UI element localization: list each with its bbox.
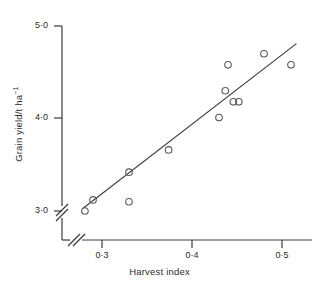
- data-point-marker: [222, 87, 229, 94]
- x-tick-label-0-3: 0·3: [85, 250, 119, 260]
- y-axis-ticks: [54, 26, 62, 211]
- y-axis-title-exponent: −1: [12, 86, 19, 94]
- regression-line: [83, 44, 296, 209]
- data-point-marker: [225, 62, 232, 69]
- data-point-marker: [288, 62, 295, 69]
- x-tick-label-0-4: 0·4: [175, 250, 209, 260]
- y-axis-title-text: Grain yield/t ha: [13, 95, 24, 162]
- x-tick-label-0-5: 0·5: [265, 250, 299, 260]
- x-axis-title: Harvest index: [0, 266, 319, 277]
- data-point-marker: [165, 147, 172, 154]
- data-points: [82, 50, 295, 214]
- data-point-marker: [216, 114, 223, 121]
- y-tick-label-3-0: 3·0: [14, 205, 48, 215]
- scatter-plot-figure: 5·0 4·0 3·0 0·3 0·4 0·5 Grain yield/t ha…: [0, 0, 319, 288]
- data-point-marker: [82, 208, 89, 215]
- y-tick-label-5-0: 5·0: [14, 20, 48, 30]
- data-point-marker: [261, 50, 268, 57]
- axis-lines: [62, 26, 312, 240]
- data-point-marker: [126, 198, 133, 205]
- y-axis-title: Grain yield/t ha−1: [12, 64, 24, 184]
- regression-line-segment: [83, 44, 296, 209]
- x-axis-ticks: [102, 240, 282, 248]
- plot-canvas: [0, 0, 319, 288]
